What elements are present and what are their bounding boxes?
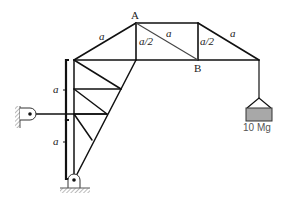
pin-icon-bottom <box>72 178 76 182</box>
hanging-load <box>246 60 272 121</box>
member-diagonal-3 <box>74 114 92 140</box>
label-dim-top-right: a <box>230 28 236 39</box>
label-node-b: B <box>194 63 201 74</box>
label-load: 10 Mg <box>243 123 271 133</box>
label-node-a: A <box>131 10 139 21</box>
truss-diagram <box>0 0 291 197</box>
dimension-brackets <box>63 60 69 179</box>
wall-pin-support <box>15 106 36 128</box>
member-left-to-a <box>74 23 136 60</box>
label-dim-left-lower: a <box>53 136 59 147</box>
left-truss <box>74 60 136 180</box>
label-dim-top-left: a <box>99 31 105 42</box>
pin-icon <box>28 112 32 116</box>
bracket-upper <box>66 60 69 120</box>
member-diagonal-2 <box>74 89 107 114</box>
load-sling <box>247 98 271 108</box>
label-dim-a-half-right: a/2 <box>200 36 214 47</box>
wall-hatch <box>15 106 20 128</box>
member-big-diagonal <box>74 60 136 180</box>
ground-hatch <box>60 188 90 193</box>
load-block <box>246 108 272 121</box>
label-dim-diag-ab: a <box>166 28 172 39</box>
bracket-lower <box>66 120 69 179</box>
pin-bracket <box>20 108 36 120</box>
ground-pin-support <box>60 174 90 193</box>
label-dim-left-upper: a <box>53 84 59 95</box>
member-diagonal-1 <box>74 60 121 89</box>
label-dim-a-half-left: a/2 <box>139 36 153 47</box>
